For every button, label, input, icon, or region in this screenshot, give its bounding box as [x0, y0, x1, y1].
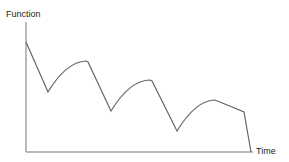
chart-plot [0, 0, 289, 162]
function-curve [26, 42, 251, 152]
